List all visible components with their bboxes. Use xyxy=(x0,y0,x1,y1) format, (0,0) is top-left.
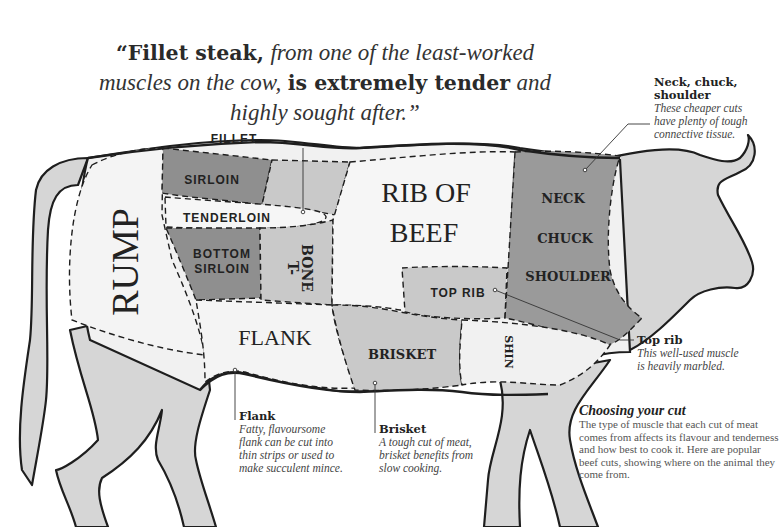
callout-flank-desc-3: thin strips or used to xyxy=(239,449,379,462)
label-top-rib: TOP RIB xyxy=(430,286,485,300)
callout-brisket-desc-1: A tough cut of meat, xyxy=(379,436,519,449)
label-rib-1: RIB OF xyxy=(381,177,470,208)
callout-brisket-desc-2: brisket benefits from xyxy=(379,449,519,462)
label-tbone-1: T- xyxy=(285,261,301,275)
callout-top-rib-title: Top rib xyxy=(637,334,777,347)
callout-brisket: Brisket A tough cut of meat, brisket ben… xyxy=(379,423,519,475)
label-rib-2: BEEF xyxy=(390,217,458,248)
label-rump: RUMP xyxy=(104,208,146,316)
callout-neck-desc-3: connective tissue. xyxy=(654,128,779,141)
label-flank: FLANK xyxy=(238,325,311,350)
callout-brisket-desc-3: slow cooking. xyxy=(379,462,519,475)
callout-brisket-title: Brisket xyxy=(379,423,519,436)
callout-neck-chuck-shoulder: Neck, chuck, shoulder These cheaper cuts… xyxy=(654,76,779,141)
callout-neck-desc-1: These cheaper cuts xyxy=(654,102,779,115)
callout-top-rib: Top rib This well-used muscle is heavily… xyxy=(637,334,777,373)
choosing-title: Choosing your cut xyxy=(579,403,779,418)
callout-flank: Flank Fatty, flavoursome flank can be cu… xyxy=(239,410,379,475)
label-bottom-sirloin-1: BOTTOM xyxy=(193,247,251,261)
label-sirloin: SIRLOIN xyxy=(184,173,240,187)
callout-flank-desc-4: make succulent mince. xyxy=(239,462,379,475)
label-brisket: BRISKET xyxy=(368,347,436,362)
callout-neck-title-2: shoulder xyxy=(654,89,779,102)
label-chuck: CHUCK xyxy=(537,231,593,246)
choosing-your-cut-box: Choosing your cut The type of muscle tha… xyxy=(579,403,779,481)
label-bottom-sirloin-2: SIRLOIN xyxy=(194,262,250,276)
label-shoulder: SHOULDER xyxy=(525,269,611,284)
label-neck: NECK xyxy=(541,191,585,206)
callout-flank-title: Flank xyxy=(239,410,379,423)
choosing-body: The type of muscle that each cut of meat… xyxy=(579,418,779,480)
label-tenderloin: TENDERLOIN xyxy=(183,211,271,225)
label-shin: SHIN xyxy=(502,335,515,369)
callout-top-rib-desc-1: This well-used muscle xyxy=(637,347,777,360)
callout-top-rib-desc-2: is heavily marbled. xyxy=(637,360,777,373)
callout-flank-desc-2: flank can be cut into xyxy=(239,436,379,449)
label-fillet: FILLET xyxy=(211,132,258,146)
callout-neck-desc-2: have plenty of tough xyxy=(654,115,779,128)
callout-flank-desc-1: Fatty, flavoursome xyxy=(239,423,379,436)
label-tbone-2: BONE xyxy=(299,244,315,292)
